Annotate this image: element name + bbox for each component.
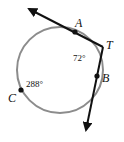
tangent-ray-TA <box>29 9 103 47</box>
tangent-diagram: A T B C 72° 288° <box>0 0 124 142</box>
point-A <box>72 29 77 34</box>
label-T: T <box>106 38 114 52</box>
label-A: A <box>74 16 83 30</box>
label-C: C <box>8 91 17 105</box>
tangent-ray-TB <box>86 47 103 130</box>
arc-AB-measure: 72° <box>73 53 86 63</box>
point-B <box>94 73 99 78</box>
arc-ACB-measure: 288° <box>26 79 44 89</box>
label-B: B <box>102 71 110 85</box>
point-C <box>18 87 23 92</box>
